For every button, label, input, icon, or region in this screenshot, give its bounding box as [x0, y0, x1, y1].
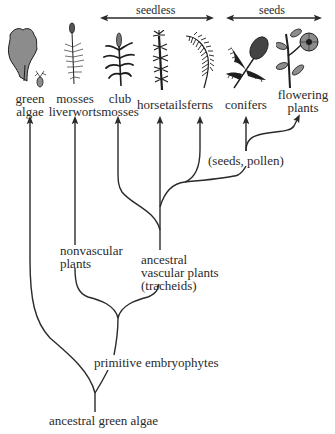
nonvascular-plants-label: nonvascular plants	[60, 244, 123, 270]
algae-icon	[5, 25, 47, 90]
taxon-label-ferns: ferns	[184, 98, 216, 111]
embryophyte-stem	[95, 370, 108, 393]
embryophyte-branch	[114, 318, 118, 355]
conifer-icon	[224, 34, 272, 90]
taxon-label-mosses-liverworts: mosses liverworts	[48, 92, 102, 118]
flowering-branch	[246, 118, 298, 151]
moss-icon	[62, 22, 88, 90]
taxon-label-club-mosses: club mosses	[100, 92, 140, 118]
nonvascular-branch	[75, 268, 118, 318]
ferns-branch	[185, 120, 200, 182]
ancestral-green-algae-label: ancestral green algae	[49, 414, 158, 427]
club-mosses-branch	[118, 120, 160, 230]
ancestral-vascular-plants-label: ancestral vascular plants (tracheids)	[141, 253, 219, 292]
primitive-embryophytes-label: primitive embryophytes	[94, 356, 219, 369]
club-moss-icon	[102, 30, 136, 88]
fern-icon	[182, 32, 216, 90]
seeds-pollen-label: (seeds, pollen)	[208, 154, 284, 167]
flower-icon	[276, 26, 322, 90]
euphyllophyte-branch	[160, 182, 185, 207]
taxon-label-green-algae: green algae	[10, 92, 50, 118]
seedless-label: seedless	[136, 4, 175, 17]
taxon-label-conifers: conifers	[222, 98, 270, 111]
taxon-label-flowering-plants: flowering plants	[275, 88, 331, 114]
seeds-label: seeds	[259, 4, 285, 17]
horsetail-icon	[150, 30, 172, 92]
taxon-label-horsetails: horsetails	[137, 98, 185, 111]
